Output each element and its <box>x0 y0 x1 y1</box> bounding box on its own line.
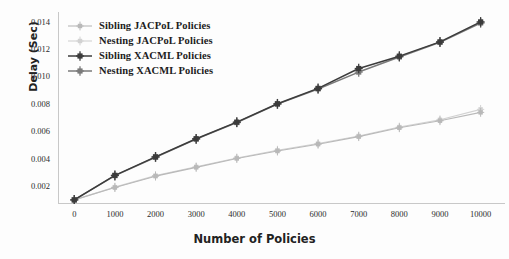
data-point-marker <box>274 147 281 156</box>
data-point-marker <box>233 117 241 127</box>
chart-legend: Sibling JACPoL Policies Nesting JACPoL P… <box>63 16 217 80</box>
y-axis-tick-label: 0.008 <box>10 99 50 109</box>
x-axis-tick-labels: 0100020003000400050006000700080009000100… <box>0 209 509 225</box>
legend-swatch-nesting-jacpol <box>67 34 93 48</box>
legend-item-sibling-jacpol: Sibling JACPoL Policies <box>67 18 213 33</box>
data-point-marker <box>233 154 240 163</box>
legend-label: Sibling XACML Policies <box>99 50 211 61</box>
data-point-marker <box>436 37 444 47</box>
series-line <box>74 112 480 200</box>
data-point-marker <box>314 140 321 149</box>
x-axis-tick-label: 8000 <box>376 209 422 219</box>
data-point-marker <box>70 195 78 204</box>
legend-item-nesting-jacpol: Nesting JACPoL Policies <box>67 33 213 48</box>
y-axis-tick-label: 0.010 <box>10 71 50 81</box>
data-point-marker <box>76 36 83 45</box>
data-point-marker <box>76 66 84 76</box>
chart-figure: Delay (Sec) Number of Policies 0.0020.00… <box>0 0 509 259</box>
y-axis-tick-label: 0.014 <box>10 17 50 27</box>
data-point-marker <box>193 163 200 172</box>
data-point-marker <box>111 171 119 181</box>
x-axis-tick-label: 9000 <box>417 209 463 219</box>
legend-item-sibling-xacml: Sibling XACML Policies <box>67 48 213 63</box>
y-axis-tick-label: 0.006 <box>10 126 50 136</box>
legend-swatch-nesting-xacml <box>67 64 93 78</box>
data-point-marker <box>355 132 362 141</box>
x-axis-tick-label: 6000 <box>295 209 341 219</box>
data-point-marker <box>395 51 403 61</box>
legend-swatch-sibling-xacml <box>67 49 93 63</box>
y-axis-tick-label: 0.012 <box>10 44 50 54</box>
data-point-marker <box>111 183 118 192</box>
data-point-marker <box>76 51 84 61</box>
x-axis-tick-label: 4000 <box>214 209 260 219</box>
data-point-marker <box>273 99 281 109</box>
data-point-marker <box>477 17 485 27</box>
data-point-marker <box>192 134 200 144</box>
x-axis-tick-label: 5000 <box>254 209 300 219</box>
x-axis-tick-label: 7000 <box>336 209 382 219</box>
y-axis-tick-label: 0.002 <box>10 181 50 191</box>
x-axis-tick-label: 0 <box>51 209 97 219</box>
x-axis-tick-label: 2000 <box>133 209 179 219</box>
data-point-marker <box>314 84 322 94</box>
y-axis-tick-label: 0.004 <box>10 154 50 164</box>
x-axis-title: Number of Policies <box>0 232 509 246</box>
data-point-marker <box>396 123 403 132</box>
legend-label: Sibling JACPoL Policies <box>99 20 210 31</box>
legend-label: Nesting JACPoL Policies <box>99 35 213 46</box>
x-axis-tick-label: 10000 <box>458 209 504 219</box>
data-point-marker <box>152 152 160 162</box>
data-point-marker <box>152 172 159 181</box>
x-axis-tick-label: 3000 <box>173 209 219 219</box>
legend-swatch-sibling-jacpol <box>67 19 93 33</box>
data-point-marker <box>436 116 443 125</box>
data-point-marker <box>76 21 83 30</box>
legend-item-nesting-xacml: Nesting XACML Policies <box>67 63 213 78</box>
legend-label: Nesting XACML Policies <box>99 65 213 76</box>
x-axis-tick-label: 1000 <box>92 209 138 219</box>
